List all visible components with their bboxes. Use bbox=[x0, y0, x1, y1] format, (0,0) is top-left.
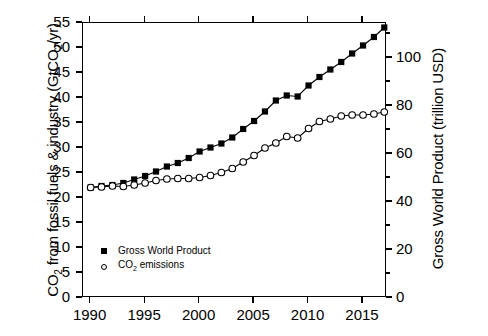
data-point-marker bbox=[131, 182, 138, 189]
y-tick-label-left: 40 bbox=[36, 88, 70, 105]
data-point-marker bbox=[229, 134, 235, 140]
data-point-marker bbox=[338, 59, 344, 65]
data-point-marker bbox=[207, 144, 213, 150]
data-point-marker bbox=[327, 116, 334, 123]
data-point-marker bbox=[295, 93, 301, 99]
data-point-marker bbox=[240, 126, 246, 132]
data-point-marker bbox=[305, 125, 312, 132]
data-point-marker bbox=[196, 148, 202, 154]
data-point-marker bbox=[273, 140, 280, 147]
data-point-marker bbox=[87, 184, 94, 191]
legend-item-co2-emissions: CO2 emissions bbox=[96, 259, 211, 275]
data-point-marker bbox=[218, 169, 225, 176]
data-point-marker bbox=[196, 174, 203, 181]
data-point-marker bbox=[153, 168, 159, 174]
y-tick-label-right: 0 bbox=[396, 288, 436, 305]
data-point-marker bbox=[371, 111, 378, 118]
data-point-marker bbox=[262, 108, 268, 114]
data-point-marker bbox=[109, 183, 116, 190]
legend-label-co2-emissions: CO2 emissions bbox=[118, 257, 184, 277]
data-point-marker bbox=[338, 113, 345, 120]
data-point-marker bbox=[316, 118, 323, 125]
data-point-marker bbox=[360, 112, 367, 119]
y-tick-label-right: 80 bbox=[396, 96, 436, 113]
data-point-marker bbox=[218, 140, 224, 146]
y-tick-label-right: 40 bbox=[396, 192, 436, 209]
data-point-marker bbox=[349, 112, 356, 119]
data-point-marker bbox=[229, 165, 236, 172]
data-point-marker bbox=[186, 155, 192, 161]
data-point-marker bbox=[207, 172, 214, 179]
y-tick-label-left: 5 bbox=[36, 263, 70, 280]
data-point-marker bbox=[316, 74, 322, 80]
y-tick-label-left: 20 bbox=[36, 188, 70, 205]
series-line bbox=[91, 112, 385, 188]
data-point-marker bbox=[142, 180, 149, 187]
y-tick-label-right: 20 bbox=[396, 240, 436, 257]
data-point-marker bbox=[175, 160, 181, 166]
data-point-marker bbox=[327, 66, 333, 72]
x-tick-label: 1995 bbox=[114, 306, 174, 323]
data-point-marker bbox=[284, 92, 290, 98]
series-line bbox=[91, 28, 385, 188]
data-point-marker bbox=[240, 159, 247, 166]
chart-figure: CO2 from fossil fuels & industry (GtCO2/… bbox=[0, 0, 488, 336]
y-tick-label-left: 45 bbox=[36, 63, 70, 80]
data-point-marker bbox=[175, 175, 182, 182]
data-point-marker bbox=[164, 176, 171, 183]
y-tick-label-left: 30 bbox=[36, 138, 70, 155]
data-point-marker bbox=[273, 97, 279, 103]
y-tick-label-left: 0 bbox=[36, 288, 70, 305]
chart-legend: Gross World Product CO2 emissions bbox=[96, 243, 211, 275]
x-tick-label: 2000 bbox=[169, 306, 229, 323]
y-tick-label-right: 60 bbox=[396, 144, 436, 161]
x-tick-label: 1990 bbox=[60, 306, 120, 323]
x-tick-label: 2010 bbox=[278, 306, 338, 323]
filled-square-icon bbox=[96, 248, 112, 254]
y-tick-label-left: 25 bbox=[36, 163, 70, 180]
data-point-marker bbox=[153, 177, 160, 184]
x-tick-label: 2005 bbox=[223, 306, 283, 323]
y-tick-label-left: 10 bbox=[36, 238, 70, 255]
data-point-marker bbox=[360, 42, 366, 48]
x-tick-label: 2015 bbox=[332, 306, 392, 323]
data-point-marker bbox=[142, 173, 148, 179]
data-point-marker bbox=[283, 133, 290, 140]
y-tick-label-left: 15 bbox=[36, 213, 70, 230]
y-tick-label-left: 55 bbox=[36, 13, 70, 30]
data-point-marker bbox=[305, 82, 311, 88]
data-point-marker bbox=[251, 152, 258, 159]
y-tick-label-left: 50 bbox=[36, 38, 70, 55]
data-point-marker bbox=[381, 109, 388, 116]
data-point-marker bbox=[251, 118, 257, 124]
y-tick-label-left: 35 bbox=[36, 113, 70, 130]
data-point-marker bbox=[381, 24, 387, 30]
data-point-marker bbox=[294, 135, 301, 142]
data-point-marker bbox=[371, 34, 377, 40]
data-point-marker bbox=[262, 145, 269, 152]
data-point-marker bbox=[349, 50, 355, 56]
open-circle-icon bbox=[96, 264, 112, 270]
y-tick-label-right: 100 bbox=[396, 48, 436, 65]
data-point-marker bbox=[98, 184, 105, 191]
data-point-marker bbox=[164, 163, 170, 169]
data-point-marker bbox=[120, 183, 127, 190]
data-point-marker bbox=[185, 175, 192, 182]
